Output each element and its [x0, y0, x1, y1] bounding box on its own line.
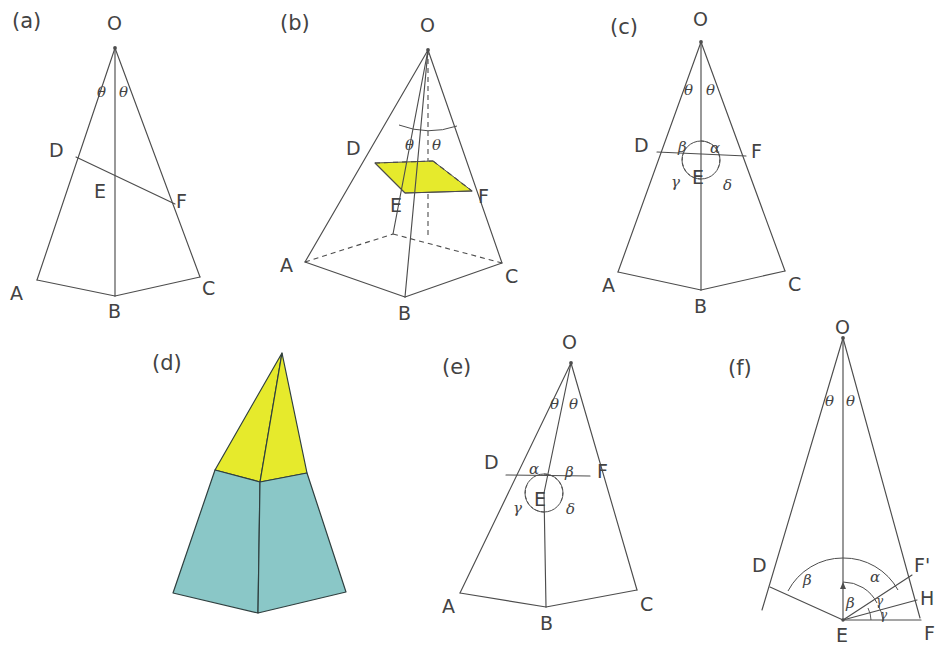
angle-label-gamma-lower: γ	[880, 608, 888, 622]
panel-f-label: (f)	[728, 356, 752, 380]
point-label-F: F	[924, 622, 935, 644]
apex-marker	[426, 48, 430, 52]
point-label-E: E	[534, 488, 546, 510]
panel-b: (b) O θ θ D E F A B C	[250, 0, 580, 330]
panel-c-drawing: (c) O θ θ D β α E γ δ F A B C	[600, 0, 949, 330]
point-label-H: H	[920, 587, 934, 609]
angle-label-delta: δ	[723, 176, 732, 194]
angle-label-theta-right: θ	[569, 395, 578, 413]
panel-d-drawing: (d)	[150, 330, 440, 650]
edge-O-through-D	[762, 338, 843, 610]
panel-f: (f) O θ θ D β α β γ γ F' H F E	[640, 320, 949, 664]
point-label-O: O	[562, 331, 577, 353]
edge-O-C	[428, 50, 502, 263]
point-label-O: O	[107, 12, 122, 34]
point-label-F: F	[597, 460, 608, 482]
point-label-B: B	[540, 612, 553, 634]
apex-marker	[569, 361, 573, 365]
point-label-A: A	[602, 274, 615, 296]
panel-a-label: (a)	[12, 9, 41, 33]
point-label-B: B	[398, 302, 411, 324]
edge-A-B	[460, 593, 546, 607]
angle-label-theta-left: θ	[825, 392, 834, 410]
cut-line-D-F	[76, 157, 175, 204]
angle-label-beta-inner: β	[845, 594, 855, 612]
arrow-E-O	[840, 582, 846, 589]
panel-c-label: (c)	[610, 15, 638, 39]
point-label-F: F	[176, 190, 187, 212]
point-label-F-prime: F'	[914, 554, 930, 576]
angle-label-alpha: α	[710, 139, 720, 157]
point-label-E: E	[94, 180, 106, 202]
panel-d: (d)	[150, 330, 440, 650]
angle-label-beta: β	[677, 138, 687, 156]
point-label-A: A	[10, 282, 23, 304]
angle-label-gamma: γ	[513, 499, 522, 517]
lower-face-right	[258, 473, 346, 613]
point-label-O: O	[835, 316, 850, 338]
edge-A-B	[305, 262, 405, 297]
angle-label-theta-left: θ	[97, 83, 106, 101]
panel-c: (c) O θ θ D β α E γ δ F A B C	[600, 0, 949, 330]
angle-label-delta: δ	[566, 500, 575, 518]
angle-label-alpha: α	[529, 460, 539, 478]
angle-label-theta-right: θ	[119, 83, 128, 101]
angle-label-gamma: γ	[671, 173, 680, 191]
angle-label-theta-left: θ	[405, 136, 414, 154]
point-label-E: E	[390, 194, 402, 216]
figure-root: (a) O θ θ D E F A B C	[0, 0, 949, 664]
point-label-B: B	[108, 300, 121, 322]
apex-marker	[699, 40, 703, 44]
edge-B-C	[546, 590, 637, 607]
edge-O-through-F	[843, 338, 920, 618]
point-label-D: D	[634, 134, 649, 156]
angle-label-gamma-upper: γ	[876, 594, 884, 608]
point-label-O: O	[420, 14, 435, 36]
point-label-D: D	[484, 451, 499, 473]
cut-line-D-F	[506, 475, 590, 476]
angle-label-alpha: α	[870, 568, 880, 586]
edge-O-A	[305, 50, 428, 262]
edge-A-B	[618, 272, 701, 290]
point-label-E: E	[836, 624, 848, 646]
angle-label-theta-right: θ	[706, 81, 715, 99]
point-label-D: D	[752, 554, 767, 576]
point-label-A: A	[280, 254, 293, 276]
lower-face-left	[173, 470, 260, 613]
edge-B-C	[701, 271, 785, 290]
angle-label-theta-right: θ	[432, 136, 441, 154]
edge-B-C	[115, 277, 200, 296]
panel-e-label: (e)	[442, 355, 471, 379]
edge-A-B	[37, 280, 115, 296]
point-label-C: C	[202, 277, 215, 299]
panel-d-label: (d)	[152, 351, 182, 375]
point-label-E: E	[692, 166, 704, 188]
angle-arc-beta-outer	[788, 558, 843, 591]
point-label-F: F	[751, 140, 762, 162]
edge-B-C	[405, 263, 502, 297]
ray-E-D	[770, 587, 843, 620]
angle-label-theta-left: θ	[550, 395, 559, 413]
vertex-E-marker	[841, 618, 844, 621]
panel-b-drawing: (b) O θ θ D E F A B C	[250, 0, 580, 330]
angle-label-beta: β	[564, 463, 574, 481]
angle-label-theta-left: θ	[684, 81, 693, 99]
point-label-C: C	[505, 265, 518, 287]
point-label-O: O	[693, 8, 708, 30]
angle-label-beta-outer: β	[802, 571, 812, 589]
edge-E-B	[544, 493, 546, 607]
point-label-C: C	[788, 273, 801, 295]
angle-label-theta-right: θ	[846, 392, 855, 410]
point-label-D: D	[49, 139, 64, 161]
point-label-A: A	[442, 595, 455, 617]
point-label-F: F	[478, 185, 489, 207]
panel-b-label: (b)	[280, 11, 310, 35]
panel-f-drawing: (f) O θ θ D β α β γ γ F' H F E	[640, 320, 949, 664]
apex-marker	[113, 46, 117, 50]
point-label-D: D	[346, 137, 361, 159]
point-label-B: B	[694, 295, 707, 317]
edge-O-A	[618, 42, 701, 272]
angle-arc-gamma-lower	[868, 608, 871, 620]
